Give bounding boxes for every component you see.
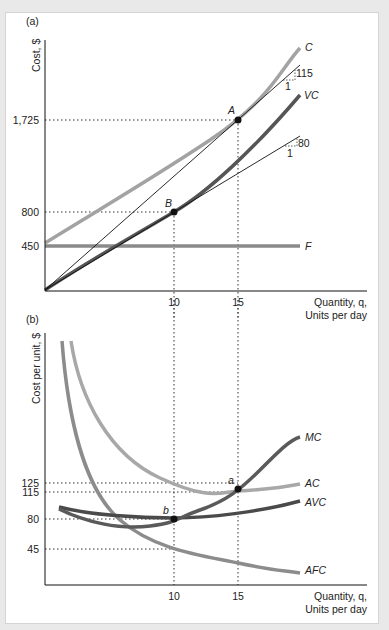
x-tick-10-b: 10 [168,590,180,602]
curve-C-label: C [305,41,313,53]
x-tick-15: 15 [232,296,244,308]
panel-a-guide-lines [45,120,238,318]
panel-a-label: (a) [26,15,39,27]
curve-F-label: F [305,240,312,252]
panel-b-y-axis-label: Cost per unit, $ [30,333,42,404]
panel-b-x-axis-label-line1: Quantity, q, [314,590,367,602]
tangent-line-at-A [45,65,300,290]
y-tick-800: 800 [21,206,39,218]
point-a-label: a [228,474,234,486]
curve-VC [45,95,300,290]
slope-label-80: 80 [298,137,310,149]
point-a [235,486,242,493]
panel-b-guide-lines [45,300,238,585]
y-tick-1725: 1,725 [13,114,39,126]
y-tick-115: 115 [22,486,39,498]
curve-AC-label: AC [304,477,320,489]
point-A-label: A [227,104,235,116]
panel-a: (a) Cost, $ 115 1 80 1 [13,15,368,321]
cost-curves-figure: (a) Cost, $ 115 1 80 1 [0,0,389,630]
panel-a-y-axis-label: Cost, $ [30,39,42,72]
point-B [171,209,178,216]
slope-run-label-a: 1 [285,80,291,92]
y-tick-80: 80 [27,513,39,525]
point-A [235,117,242,124]
x-tick-10: 10 [168,296,180,308]
curve-AC [71,341,300,494]
y-tick-450: 450 [21,240,39,252]
panel-b: (b) Cost per unit, $ a b MC AC AVC AFC [21,300,367,615]
curve-AVC [59,501,300,518]
point-b-label: b [163,504,169,516]
panel-b-label: (b) [26,313,39,325]
panel-b-x-axis-label-line2: Units per day [305,603,368,615]
slope-label-115: 115 [296,67,313,79]
curve-MC-label: MC [305,431,322,443]
curve-VC-label: VC [304,89,319,101]
panel-a-x-axis-label-line1: Quantity, q, [314,296,367,308]
curve-AFC-label: AFC [304,564,326,576]
point-b [171,516,178,523]
curve-AFC [62,341,300,573]
slope-run-label-b: 1 [287,147,293,159]
x-tick-15-b: 15 [232,590,244,602]
y-tick-45: 45 [27,543,39,555]
panel-a-x-axis-label-line2: Units per day [305,309,368,321]
point-B-label: B [165,197,172,209]
curve-AVC-label: AVC [304,496,326,508]
